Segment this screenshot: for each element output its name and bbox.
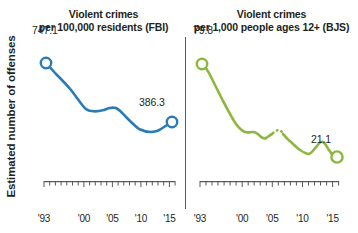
series-line-bjs-break — [273, 130, 282, 133]
series-line-bjs-segment-1 — [202, 64, 272, 138]
x-tick-label-bjs-4: '15 — [326, 213, 338, 224]
marker-bjs-end — [331, 151, 342, 162]
panel-fbi: Violent crimes per 100,000 residents (FB… — [22, 0, 185, 233]
x-axis-labels-bjs: '93 '00 '05 '10 '15 — [185, 213, 358, 227]
x-tick-label-fbi-0: '93 — [38, 213, 50, 224]
marker-bjs-start — [197, 59, 207, 69]
x-axis-fbi — [22, 181, 185, 211]
x-tick-label-bjs-0: '93 — [194, 213, 206, 224]
callout-bjs-start: 79.8 — [193, 24, 213, 36]
x-tick-label-bjs-1: '00 — [236, 213, 248, 224]
marker-fbi-end — [167, 117, 177, 127]
x-tick-label-fbi-4: '15 — [163, 213, 175, 224]
x-tick-label-fbi-2: '05 — [106, 213, 118, 224]
x-axis-labels-fbi: '93 '00 '05 '10 '15 — [22, 213, 185, 227]
x-tick-label-fbi-1: '00 — [78, 213, 90, 224]
callout-fbi-start: 747.1 — [32, 24, 58, 36]
line-chart-bjs — [185, 38, 358, 198]
x-axis-bjs — [185, 181, 358, 211]
x-tick-label-bjs-3: '10 — [296, 213, 308, 224]
line-chart-fbi — [22, 38, 185, 198]
x-tick-label-fbi-3: '10 — [135, 213, 147, 224]
marker-fbi-start — [41, 58, 51, 68]
plot-area-bjs: 79.8 21.1 — [185, 38, 358, 198]
y-axis-label: Estimated number of offenses — [0, 0, 22, 233]
callout-fbi-end: 386.3 — [139, 96, 165, 108]
panel-bjs-title-line1: Violent crimes — [237, 8, 307, 20]
violent-crime-figure: Estimated number of offenses Violent cri… — [0, 0, 358, 233]
panel-fbi-title-line1: Violent crimes — [69, 8, 139, 20]
panel-bjs: Violent crimes per 1,000 people ages 12+… — [185, 0, 358, 233]
plot-area-fbi: 747.1 386.3 — [22, 38, 185, 198]
x-tick-label-bjs-2: '05 — [266, 213, 278, 224]
x-axis-ticks-bjs — [185, 181, 358, 193]
x-axis-ticks-fbi — [22, 181, 185, 193]
callout-bjs-end: 21.1 — [311, 133, 331, 145]
